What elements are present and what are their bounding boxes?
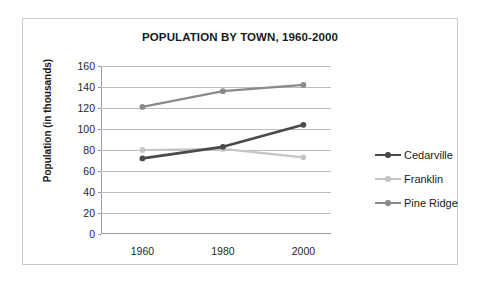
legend-label: Pine Ridge (404, 197, 458, 209)
y-tick-label: 20 (83, 207, 95, 219)
chart-title: POPULATION BY TOWN, 1960-2000 (23, 31, 457, 43)
legend-label: Franklin (404, 173, 443, 185)
data-point-marker (301, 82, 307, 88)
legend-marker-icon (375, 173, 401, 185)
data-point-marker (140, 104, 146, 110)
series-plot (101, 66, 331, 234)
legend-marker-icon (375, 197, 401, 209)
plot-area: 020406080100120140160 196019802000 (101, 66, 331, 234)
data-point-marker (140, 147, 146, 153)
data-point-marker (301, 122, 307, 128)
y-tick-label: 140 (77, 81, 95, 93)
series-line (142, 125, 303, 159)
chart-legend: CedarvilleFranklinPine Ridge (375, 143, 475, 215)
legend-marker-icon (375, 149, 401, 161)
x-tick-label: 1980 (211, 245, 234, 257)
y-tick-label: 120 (77, 102, 95, 114)
legend-item-cedarville[interactable]: Cedarville (375, 143, 475, 167)
y-tick-label: 160 (77, 60, 95, 72)
y-tick-label: 80 (83, 144, 95, 156)
x-tick-label: 2000 (292, 245, 315, 257)
y-tick-mark (98, 234, 101, 235)
x-tick-label: 1960 (131, 245, 154, 257)
y-tick-label: 100 (77, 123, 95, 135)
y-axis-title: Population (in thousands) (42, 41, 53, 201)
data-point-marker (220, 144, 226, 150)
legend-item-pine-ridge[interactable]: Pine Ridge (375, 191, 475, 215)
chart-frame: POPULATION BY TOWN, 1960-2000 Population… (22, 18, 458, 265)
data-point-marker (301, 154, 307, 160)
y-tick-label: 40 (83, 186, 95, 198)
legend-label: Cedarville (404, 149, 453, 161)
y-tick-label: 60 (83, 165, 95, 177)
data-point-marker (140, 156, 146, 162)
legend-item-franklin[interactable]: Franklin (375, 167, 475, 191)
series-line (142, 85, 303, 107)
data-point-marker (220, 88, 226, 94)
y-tick-label: 0 (89, 228, 95, 240)
